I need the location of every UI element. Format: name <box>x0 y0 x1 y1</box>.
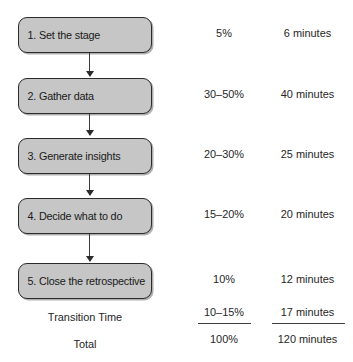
flow-step-box-3[interactable]: 3. Generate insights <box>18 138 152 174</box>
arrow-head-icon <box>86 190 94 196</box>
flow-step-label-3: 3. Generate insights <box>19 150 120 162</box>
summary-duration-total: 120 minutes <box>264 333 350 345</box>
flow-step-box-5[interactable]: 5. Close the retrospective <box>18 263 152 299</box>
flow-connector-2-to-3 <box>85 114 94 135</box>
step-duration-4: 20 minutes <box>264 208 350 220</box>
flow-connector-4-to-5 <box>85 234 94 261</box>
summary-percent-transition-time: 10–15% <box>182 306 266 318</box>
flow-step-label-2: 2. Gather data <box>19 90 94 102</box>
flow-step-box-1[interactable]: 1. Set the stage <box>18 17 152 53</box>
flow-step-label-5: 5. Close the retrospective <box>19 275 145 287</box>
arrow-head-icon <box>86 130 94 136</box>
step-percent-4: 15–20% <box>182 208 266 220</box>
arrow-head-icon <box>86 256 94 262</box>
summary-duration-transition-time: 17 minutes <box>264 306 350 318</box>
summary-rule-duration <box>272 323 345 324</box>
summary-percent-total: 100% <box>182 333 266 345</box>
summary-label-transition-time: Transition Time <box>21 311 148 323</box>
summary-rule-percent <box>198 323 251 324</box>
summary-label-total: Total <box>21 338 148 350</box>
step-percent-5: 10% <box>182 273 266 285</box>
flow-step-box-2[interactable]: 2. Gather data <box>18 78 152 114</box>
flow-connector-3-to-4 <box>85 174 94 195</box>
flow-step-box-4[interactable]: 4. Decide what to do <box>18 198 152 234</box>
flow-connector-1-to-2 <box>85 53 94 76</box>
step-percent-1: 5% <box>182 27 266 39</box>
retrospective-agenda-diagram: 1. Set the stage 5% 6 minutes 2. Gather … <box>0 0 353 362</box>
arrow-head-icon <box>86 71 94 77</box>
step-percent-3: 20–30% <box>182 148 266 160</box>
flow-step-label-1: 1. Set the stage <box>19 29 100 41</box>
step-duration-5: 12 minutes <box>264 273 350 285</box>
flow-step-label-4: 4. Decide what to do <box>19 210 122 222</box>
step-percent-2: 30–50% <box>182 88 266 100</box>
step-duration-2: 40 minutes <box>264 88 350 100</box>
step-duration-1: 6 minutes <box>264 27 350 39</box>
step-duration-3: 25 minutes <box>264 148 350 160</box>
